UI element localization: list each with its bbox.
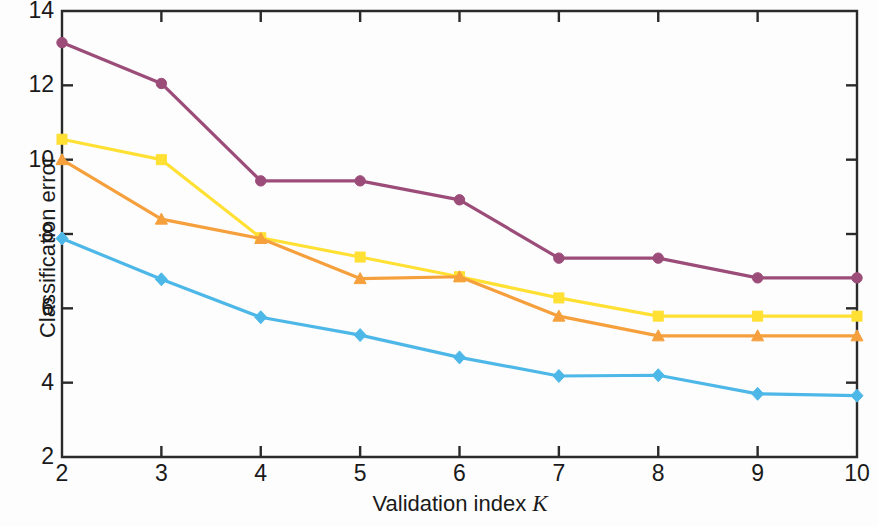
data-point-marker-circle (156, 78, 166, 88)
data-point-marker-square (57, 134, 67, 144)
data-point-marker-diamond (752, 387, 764, 400)
data-point-marker-square (355, 252, 365, 262)
data-point-marker-diamond (255, 311, 267, 324)
data-point-marker-diamond (553, 369, 565, 382)
series-yellow (57, 134, 862, 321)
data-point-marker-diamond (454, 351, 466, 364)
data-series-layer (56, 37, 863, 402)
data-point-marker-circle (256, 176, 266, 186)
data-point-marker-diamond (851, 389, 863, 402)
data-point-marker-circle (752, 273, 762, 283)
plot-area (0, 0, 878, 527)
series-line-purple (62, 43, 857, 278)
data-point-marker-square (156, 155, 166, 165)
data-point-marker-circle (355, 176, 365, 186)
data-point-marker-circle (554, 253, 564, 263)
data-point-marker-diamond (155, 273, 167, 286)
data-point-marker-square (554, 293, 564, 303)
data-point-marker-circle (852, 273, 862, 283)
data-point-marker-square (653, 311, 663, 321)
data-point-marker-square (753, 311, 763, 321)
data-point-marker-diamond (354, 329, 366, 342)
data-point-marker-circle (57, 37, 67, 47)
data-point-marker-circle (653, 253, 663, 263)
series-orange (56, 154, 863, 341)
series-line-orange (62, 160, 857, 336)
series-purple (57, 37, 862, 283)
series-line-yellow (62, 139, 857, 316)
data-point-marker-diamond (652, 369, 664, 382)
data-point-marker-square (852, 311, 862, 321)
data-point-marker-circle (454, 195, 464, 205)
figure-container: Classification error Validation indexK 2… (0, 0, 878, 527)
